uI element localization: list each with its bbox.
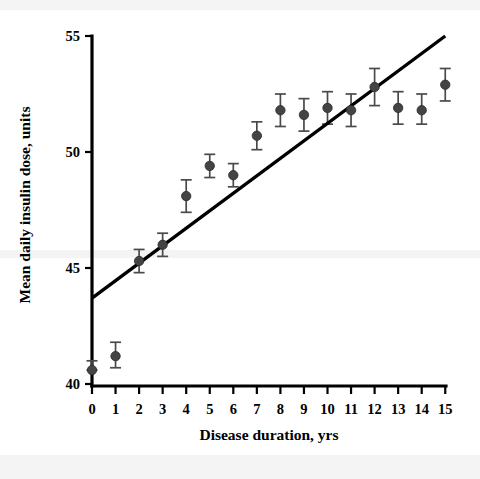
- data-point: [87, 365, 96, 374]
- x-tick-label-11: 11: [344, 401, 358, 417]
- x-tick-label-13: 13: [391, 401, 406, 417]
- chart-figure: 55 50 45 40 0123456789101112131415 Disea…: [0, 0, 480, 479]
- data-point: [252, 131, 261, 140]
- scan-band-middle: [0, 250, 480, 258]
- data-point: [346, 106, 355, 115]
- x-tick-label-2: 2: [135, 401, 142, 417]
- x-tick-label-12: 12: [367, 401, 382, 417]
- x-tick-label-8: 8: [277, 401, 284, 417]
- data-point: [205, 161, 214, 170]
- data-point: [393, 103, 402, 112]
- data-point: [323, 103, 332, 112]
- data-point: [370, 82, 379, 91]
- x-tick-label-4: 4: [183, 401, 190, 417]
- y-axis-title: Mean daily insulin dose, units: [16, 107, 33, 304]
- data-point: [276, 106, 285, 115]
- x-axis-tick-labels: 0123456789101112131415: [88, 401, 452, 417]
- insulin-dose-scatter-plot: 55 50 45 40 0123456789101112131415 Disea…: [0, 0, 480, 479]
- data-point: [229, 171, 238, 180]
- data-point: [417, 106, 426, 115]
- y-tick-label-55: 55: [66, 28, 81, 44]
- x-tick-label-15: 15: [438, 401, 453, 417]
- x-tick-label-6: 6: [230, 401, 237, 417]
- y-tick-label-50: 50: [66, 144, 81, 160]
- data-point: [441, 80, 450, 89]
- scan-band-bottom: [0, 455, 480, 479]
- data-point: [111, 351, 120, 360]
- x-tick-label-3: 3: [159, 401, 166, 417]
- scan-band-top: [0, 0, 480, 10]
- x-tick-label-7: 7: [253, 401, 260, 417]
- x-tick-label-10: 10: [320, 401, 335, 417]
- x-tick-label-5: 5: [206, 401, 213, 417]
- error-bars-group: [87, 68, 451, 370]
- y-tick-label-45: 45: [66, 260, 81, 276]
- data-point: [182, 191, 191, 200]
- x-tick-label-14: 14: [414, 401, 429, 417]
- x-axis-title: Disease duration, yrs: [199, 426, 338, 443]
- data-point: [134, 256, 143, 265]
- x-tick-label-0: 0: [88, 401, 95, 417]
- y-axis-tick-labels: 55 50 45 40: [66, 28, 81, 392]
- regression-line-group: [92, 36, 445, 298]
- x-tick-label-1: 1: [112, 401, 119, 417]
- regression-line: [92, 36, 445, 298]
- data-point: [299, 110, 308, 119]
- x-tick-label-9: 9: [300, 401, 307, 417]
- y-tick-label-40: 40: [66, 376, 81, 392]
- data-point: [158, 240, 167, 249]
